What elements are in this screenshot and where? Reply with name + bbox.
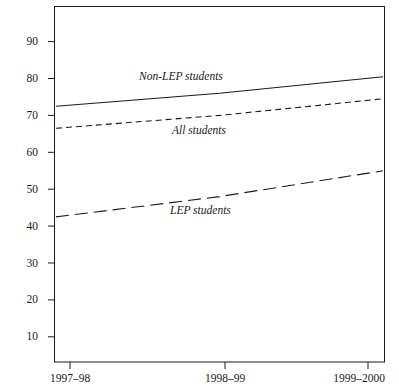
y-tick-label-90: 90 [4,36,38,48]
x-tick-label-1997-98: 1997–98 [30,373,110,385]
y-tick-label-30: 30 [4,258,38,270]
y-tick-label-20: 20 [4,294,38,306]
plot-area [0,0,399,391]
y-tick-label-50: 50 [4,184,38,196]
line-chart: 90 80 70 60 50 40 30 20 10 1997–98 1998–… [0,0,399,391]
x-axis-ticks [70,362,368,369]
plot-frame [55,7,385,363]
y-tick-label-70: 70 [4,110,38,122]
series-label-non-lep-students: Non-LEP students [139,71,223,83]
y-tick-label-60: 60 [4,147,38,159]
y-tick-label-40: 40 [4,221,38,233]
y-tick-label-80: 80 [4,73,38,85]
series-label-lep-students: LEP students [170,205,231,217]
series-label-all-students: All students [172,125,226,137]
x-tick-label-1998-99: 1998–99 [185,373,265,385]
x-tick-label-1999-2000: 1999–2000 [320,373,398,385]
y-axis-ticks [48,42,55,337]
y-tick-label-10: 10 [4,331,38,343]
